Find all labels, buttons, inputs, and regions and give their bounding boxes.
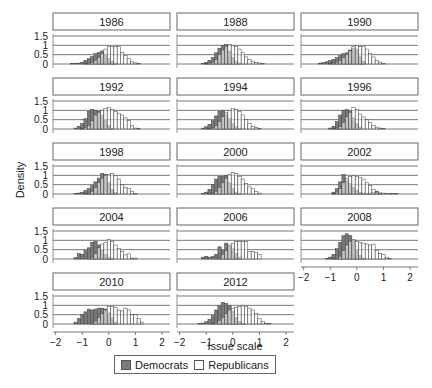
democrats-bar: [215, 310, 218, 324]
republicans-bar: [339, 188, 342, 194]
republicans-bar: [251, 310, 254, 324]
republicans-bar: [382, 193, 385, 194]
republicans-bar: [97, 183, 100, 194]
republicans-bar: [101, 178, 104, 194]
republicans-bar: [94, 321, 97, 324]
republicans-bar: [87, 125, 90, 129]
republicans-bar: [392, 193, 395, 194]
panel-title: 2004: [99, 211, 123, 223]
republicans-bar: [107, 306, 110, 324]
republicans-bar: [235, 46, 238, 64]
y-tick-label: 1.5: [34, 291, 48, 302]
republicans-bar: [231, 173, 234, 194]
republicans-bar: [221, 50, 224, 64]
republicans-bar: [228, 245, 231, 259]
legend-item-democrats: Democrats: [121, 359, 188, 371]
republicans-bar: [362, 179, 365, 194]
republicans-bar: [225, 251, 228, 259]
republicans-bar: [231, 243, 234, 259]
democrats-bar: [215, 254, 218, 259]
republicans-bar: [221, 317, 224, 324]
republicans-bar: [107, 108, 110, 129]
republicans-bar: [225, 112, 228, 129]
republicans-bar: [104, 242, 107, 259]
republicans-bar: [127, 121, 130, 129]
republicans-swatch-icon: [194, 360, 204, 370]
republicans-bar: [261, 321, 264, 324]
republicans-bar: [375, 251, 378, 259]
republicans-bar: [238, 241, 241, 259]
republicans-bar: [111, 173, 114, 194]
democrats-bar: [205, 192, 208, 194]
republicans-bar: [368, 54, 371, 64]
republicans-bar: [87, 63, 90, 64]
republicans-bar: [264, 323, 267, 324]
republicans-bar: [94, 253, 97, 259]
panel-title: 2010: [99, 276, 123, 288]
legend-label-democrats: Democrats: [135, 359, 188, 371]
republicans-bar: [225, 46, 228, 64]
republicans-bar: [345, 178, 348, 194]
democrats-swatch-icon: [121, 360, 131, 370]
republicans-bar: [235, 109, 238, 129]
republicans-bar: [130, 258, 133, 259]
republicans-bar: [352, 46, 355, 64]
democrats-bar: [81, 315, 84, 324]
republicans-bar: [120, 115, 123, 129]
republicans-bar: [228, 174, 231, 194]
panel-title: 1988: [223, 16, 247, 28]
republicans-bar: [244, 120, 247, 129]
republicans-bar: [228, 310, 231, 324]
republicans-bar: [130, 125, 133, 129]
republicans-bar: [372, 189, 375, 194]
republicans-bar: [238, 306, 241, 324]
panel-1996: 1996: [301, 78, 418, 133]
panel-title: 1990: [347, 16, 371, 28]
republicans-bar: [385, 193, 388, 194]
republicans-bar: [127, 310, 130, 324]
republicans-bar: [244, 184, 247, 194]
republicans-bar: [111, 241, 114, 259]
democrats-bar: [74, 63, 77, 64]
republicans-bar: [254, 252, 257, 259]
republicans-bar: [124, 187, 127, 194]
panel-1992: 199200.511.5: [34, 78, 170, 135]
republicans-bar: [378, 253, 381, 259]
republicans-bar: [368, 186, 371, 194]
democrats-bar: [77, 193, 80, 194]
y-tick-label: 1.5: [34, 31, 48, 42]
republicans-bar: [244, 57, 247, 64]
republicans-bar: [342, 183, 345, 194]
republicans-bar: [218, 55, 221, 64]
republicans-bar: [215, 59, 218, 64]
panel-2006: 2006: [177, 208, 294, 263]
panel-2012: 2012−2−1012: [174, 273, 294, 348]
republicans-bar: [94, 60, 97, 64]
republicans-bar: [382, 63, 385, 64]
republicans-bar: [235, 241, 238, 259]
republicans-bar: [215, 125, 218, 129]
republicans-bar: [87, 193, 90, 194]
republicans-bar: [359, 177, 362, 194]
republicans-bar: [107, 174, 110, 194]
x-tick-label: 0: [354, 272, 360, 283]
democrats-bar: [74, 193, 77, 194]
republicans-bar: [359, 242, 362, 259]
republicans-bar: [104, 310, 107, 324]
panel-title: 1998: [99, 146, 123, 158]
republicans-bar: [215, 191, 218, 194]
republicans-bar: [382, 254, 385, 259]
republicans-bar: [228, 44, 231, 64]
republicans-bar: [375, 127, 378, 129]
panel-1998: 199800.511.5: [34, 143, 170, 200]
republicans-bar: [130, 62, 133, 64]
republicans-bar: [120, 252, 123, 259]
democrats-bar: [205, 322, 208, 324]
republicans-bar: [208, 128, 211, 129]
republicans-bar: [211, 62, 214, 64]
republicans-bar: [388, 258, 391, 259]
republicans-bar: [225, 178, 228, 194]
democrats-bar: [77, 318, 80, 324]
democrats-bar: [332, 254, 335, 259]
republicans-bar: [254, 191, 257, 194]
